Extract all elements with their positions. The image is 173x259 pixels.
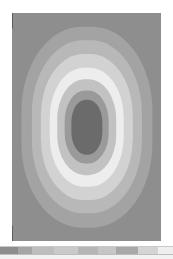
legend-swatch-3[interactable] <box>32 247 54 254</box>
legend-swatch-9[interactable] <box>158 247 173 254</box>
contour-plot-canvas[interactable]: MX MNX <box>12 13 161 241</box>
legend-swatch-2[interactable] <box>18 247 32 254</box>
legend-shadow <box>0 255 173 259</box>
legend-swatch-7[interactable] <box>116 247 138 254</box>
color-legend-bar[interactable] <box>0 246 173 255</box>
legend-swatch-4[interactable] <box>54 247 78 254</box>
legend-swatch-6[interactable] <box>98 247 116 254</box>
contour-plot-page: MX MNX <box>0 0 173 259</box>
legend-swatch-5[interactable] <box>78 247 98 254</box>
legend-swatch-8[interactable] <box>138 247 158 254</box>
contour-band-8 <box>71 100 102 155</box>
legend-swatch-1[interactable] <box>0 247 18 254</box>
